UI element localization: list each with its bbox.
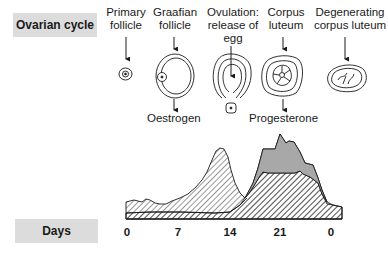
- hormone-chart: [126, 134, 342, 219]
- days-label: Days: [15, 219, 98, 243]
- graafian-follicle-icon: [156, 54, 194, 98]
- day-tick-7: 7: [175, 226, 181, 238]
- day-tick-14: 14: [224, 226, 237, 238]
- day-tick-21: 21: [274, 226, 287, 238]
- primary-follicle-icon: [119, 68, 132, 80]
- day-tick-0-end: 0: [328, 226, 334, 238]
- days-text: Days: [42, 224, 71, 238]
- ovarian-cycle-diagram: [0, 0, 388, 256]
- day-tick-0: 0: [124, 226, 130, 238]
- corpus-luteum-icon: [262, 56, 303, 96]
- ovulation-icon: [213, 54, 251, 113]
- degenerating-corpus-luteum-icon: [328, 65, 367, 92]
